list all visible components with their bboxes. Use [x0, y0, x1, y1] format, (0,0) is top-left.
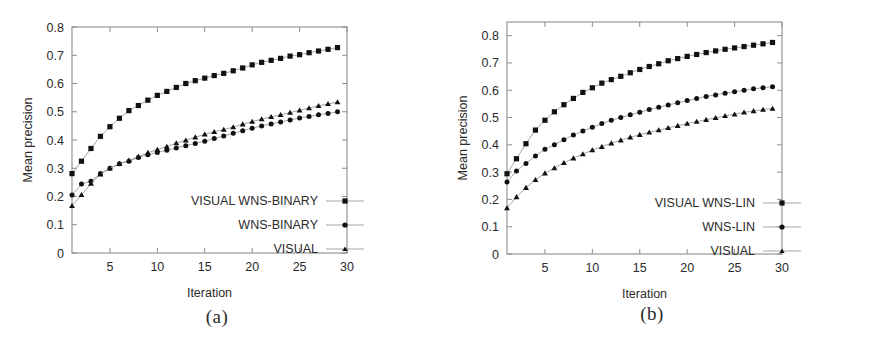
legend-marker [342, 222, 347, 227]
y-tick-label: 0.6 [482, 84, 499, 98]
x-tick-label: 25 [293, 260, 307, 274]
data-point [666, 102, 671, 107]
legend: VISUAL WNS-BINARYWNS-BINARYVISUAL [191, 194, 364, 256]
x-tick-label: 15 [633, 261, 647, 275]
data-point [704, 94, 709, 99]
data-point [231, 68, 236, 73]
data-point [713, 92, 718, 97]
data-point [580, 90, 585, 95]
data-point [164, 89, 169, 94]
data-point [618, 74, 623, 79]
data-point [599, 81, 604, 86]
legend-label: WNS-LIN [702, 220, 755, 234]
data-point [79, 182, 84, 187]
data-point [770, 106, 776, 111]
y-tick-label: 0.7 [482, 56, 499, 70]
y-tick-label: 0.4 [47, 134, 64, 148]
figure-container: 00.10.20.30.40.50.60.70.851015202530Iter… [0, 0, 869, 363]
legend-marker [342, 198, 347, 203]
x-tick-label: 25 [728, 261, 742, 275]
data-point [335, 109, 340, 114]
data-point [570, 155, 576, 160]
data-point [306, 50, 311, 55]
x-tick-label: 20 [245, 260, 259, 274]
data-point [590, 125, 595, 130]
series-2 [70, 109, 341, 197]
data-point [685, 54, 690, 59]
data-point [561, 102, 566, 107]
y-tick-label: 0.3 [482, 166, 499, 180]
chart-panel-a: 00.10.20.30.40.50.60.70.851015202530Iter… [0, 0, 434, 363]
y-tick-label: 0.1 [47, 218, 64, 232]
data-point [647, 64, 652, 69]
y-tick-label: 0.8 [47, 21, 64, 35]
data-point [647, 107, 652, 112]
data-point [174, 85, 179, 90]
y-tick-label: 0.3 [47, 162, 64, 176]
data-point [278, 56, 283, 61]
y-axis-label: Mean precision [456, 96, 470, 181]
data-point [666, 58, 671, 63]
data-point [609, 77, 614, 82]
data-point [326, 111, 331, 116]
x-tick-label: 10 [585, 261, 599, 275]
data-point [533, 127, 538, 132]
data-point [269, 58, 274, 63]
data-point [571, 132, 576, 137]
data-point [523, 141, 528, 146]
data-point [202, 76, 207, 81]
legend-label: VISUAL WNS-BINARY [191, 194, 319, 208]
data-point [742, 88, 747, 93]
data-point [221, 134, 226, 139]
data-point [297, 52, 302, 57]
data-point [618, 115, 623, 120]
data-point [335, 99, 341, 104]
data-point [675, 100, 680, 105]
x-tick-label: 10 [150, 260, 164, 274]
data-point [723, 91, 728, 96]
data-point [552, 109, 557, 114]
chart-panel-b: 00.10.20.30.40.50.60.70.851015202530Iter… [435, 0, 869, 363]
data-point [741, 44, 746, 49]
data-point [193, 141, 198, 146]
data-point [637, 67, 642, 72]
data-point [580, 128, 585, 133]
y-tick-label: 0 [492, 248, 499, 262]
data-point [694, 96, 699, 101]
data-point [713, 48, 718, 53]
data-point [656, 105, 661, 110]
data-point [288, 53, 293, 58]
data-point [221, 71, 226, 76]
data-point [250, 62, 255, 67]
data-point [212, 136, 217, 141]
data-point [269, 121, 274, 126]
data-point [297, 115, 302, 120]
data-point [193, 78, 198, 83]
data-point [69, 171, 74, 176]
data-point [335, 45, 340, 50]
data-point [732, 45, 737, 50]
data-point [505, 179, 510, 184]
data-point [288, 117, 293, 122]
data-point [723, 47, 728, 52]
data-point [628, 70, 633, 75]
data-point [637, 110, 642, 115]
data-point [231, 131, 236, 136]
legend-label: VISUAL [711, 244, 756, 258]
data-point [316, 112, 321, 117]
data-point [514, 169, 519, 174]
y-tick-label: 0 [57, 247, 64, 261]
y-tick-label: 0.5 [482, 111, 499, 125]
x-tick-label: 5 [541, 261, 548, 275]
x-axis-label: Iteration [622, 287, 667, 301]
data-point [117, 116, 122, 121]
series-1 [504, 40, 775, 176]
y-tick-label: 0.8 [482, 29, 499, 43]
y-tick-label: 0.1 [482, 220, 499, 234]
data-point [533, 154, 538, 159]
data-point [240, 128, 245, 133]
data-point [88, 146, 93, 151]
data-point [552, 142, 557, 147]
data-point [685, 98, 690, 103]
data-point [504, 171, 509, 176]
